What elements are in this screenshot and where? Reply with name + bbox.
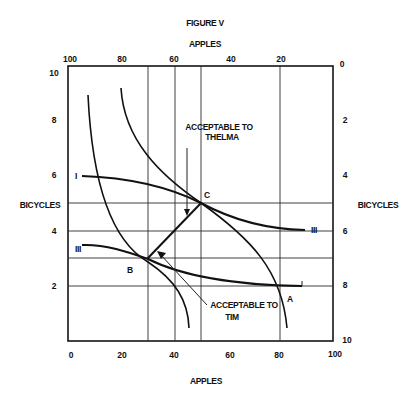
svg-text:40: 40 <box>226 54 236 64</box>
tim-curve-inner <box>88 95 189 328</box>
curve-I-label: I <box>75 171 77 181</box>
svg-text:20: 20 <box>276 54 286 64</box>
figure-title: FIGURE V <box>186 18 224 28</box>
svg-text:100: 100 <box>328 349 342 359</box>
svg-text:60: 60 <box>225 350 235 360</box>
left-axis-label: BICYCLES <box>20 200 61 210</box>
contract-line-b-c <box>148 203 201 258</box>
curve-III-lower-label: III <box>75 244 81 254</box>
svg-text:100: 100 <box>63 54 77 64</box>
svg-text:10: 10 <box>342 335 352 345</box>
svg-text:4: 4 <box>343 170 348 180</box>
svg-text:40: 40 <box>169 350 179 360</box>
svg-text:80: 80 <box>274 350 284 360</box>
svg-text:8: 8 <box>52 115 57 125</box>
svg-text:10: 10 <box>49 68 59 78</box>
svg-text:8: 8 <box>343 280 348 290</box>
tim-pointer-line <box>160 254 207 305</box>
point-b-label: B <box>127 265 133 275</box>
bottom-ticks: 0 20 40 60 80 100 <box>69 349 343 360</box>
svg-text:0: 0 <box>69 350 74 360</box>
svg-text:4: 4 <box>52 226 57 236</box>
tim-annotation-line1: ACCEPTABLE TO <box>210 300 278 310</box>
tim-annotation-line2: TIM <box>225 312 239 322</box>
right-axis-label: BICYCLES <box>358 200 399 210</box>
curve-III-lower <box>82 245 302 286</box>
top-axis-label: APPLES <box>189 39 222 49</box>
svg-text:2: 2 <box>343 115 348 125</box>
svg-text:6: 6 <box>343 226 348 236</box>
curve-III-upper-label: III <box>311 225 317 235</box>
svg-text:80: 80 <box>117 54 127 64</box>
bottom-axis-label: APPLES <box>190 376 223 386</box>
point-c-label: C <box>204 190 210 200</box>
svg-text:20: 20 <box>117 350 127 360</box>
edgeworth-box-figure: FIGURE V APPLES APPLES BICYCLES BICYCLES… <box>0 0 414 401</box>
thelma-annotation-line2: THELMA <box>205 132 239 142</box>
point-a-label: A <box>287 294 293 304</box>
left-ticks: 10 8 6 4 2 <box>49 68 59 291</box>
svg-text:60: 60 <box>169 54 179 64</box>
svg-text:6: 6 <box>52 170 57 180</box>
right-ticks: 0 2 4 6 8 10 <box>340 59 352 345</box>
svg-text:2: 2 <box>52 281 57 291</box>
thelma-annotation-line1: ACCEPTABLE TO <box>185 122 253 132</box>
